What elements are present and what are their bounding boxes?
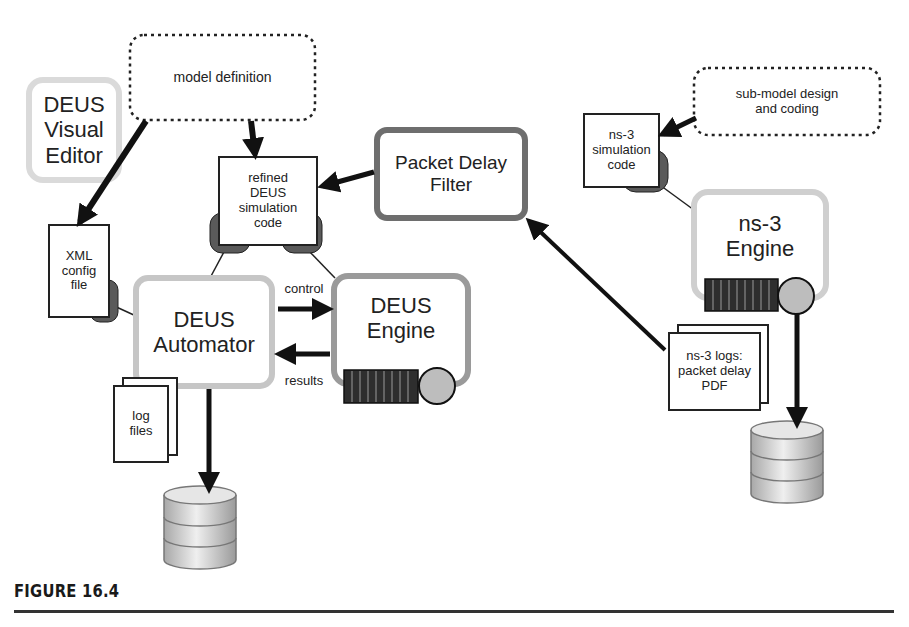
- label-line: sub-model design: [736, 87, 839, 102]
- label-line: file: [71, 278, 88, 293]
- arrow-submodel-to-ns3code: [663, 118, 696, 134]
- control-text: control: [284, 282, 323, 297]
- xml-config-label: XML config file: [49, 225, 109, 317]
- label-line: code: [607, 158, 635, 173]
- label-line: DEUS: [43, 92, 104, 117]
- arrow-filter-to-refined-code: [323, 172, 374, 186]
- label-line: log: [132, 409, 149, 424]
- ns3-engine-server-icon: [778, 278, 814, 314]
- label-line: Engine: [367, 318, 436, 343]
- deus-engine-server-icon: [419, 368, 455, 404]
- label-line: Visual: [44, 117, 104, 142]
- caption-divider: [14, 610, 894, 613]
- deus-engine-queue-icon: [344, 370, 418, 403]
- label-line: config: [62, 264, 97, 279]
- deus-visual-editor-label: DEUS Visual Editor: [29, 80, 119, 180]
- log-files-label: log files: [114, 386, 168, 462]
- label-line: Filter: [430, 174, 472, 196]
- arrow-model-to-refined-code: [251, 121, 255, 154]
- label-line: DEUS: [250, 186, 286, 201]
- arrow-ns3logs-to-filter: [530, 222, 665, 350]
- label-line: DEUS: [173, 307, 234, 332]
- label-line: XML: [66, 249, 93, 264]
- label-line: Engine: [726, 236, 795, 261]
- deus-engine-label: DEUS Engine: [334, 276, 468, 360]
- results-edge-label: results: [276, 372, 332, 390]
- label-line: packet delay: [678, 364, 751, 379]
- sub-model-design-label: sub-model design and coding: [694, 68, 880, 135]
- results-text: results: [285, 374, 323, 389]
- database-icon-left: [164, 486, 236, 569]
- packet-delay-filter-label: Packet Delay Filter: [377, 130, 525, 218]
- control-edge-label: control: [276, 280, 332, 298]
- refined-deus-code-label: refined DEUS simulation code: [219, 157, 317, 245]
- label-line: ns-3: [609, 128, 634, 143]
- ns3-logs-label: ns-3 logs: packet delay PDF: [669, 333, 760, 410]
- ns3-simulation-code-label: ns-3 simulation code: [584, 114, 659, 187]
- model-definition-text: model definition: [173, 69, 271, 85]
- label-line: ns-3: [739, 211, 782, 236]
- label-line: DEUS: [370, 293, 431, 318]
- ns3-engine-queue-icon: [705, 279, 778, 311]
- label-line: Automator: [153, 332, 255, 357]
- label-line: PDF: [702, 379, 728, 394]
- label-line: and coding: [755, 102, 819, 117]
- label-line: Packet Delay: [395, 152, 507, 174]
- label-line: Editor: [45, 143, 102, 168]
- deus-automator-label: DEUS Automator: [136, 278, 272, 386]
- model-definition-label: model definition: [130, 35, 315, 120]
- label-line: code: [254, 216, 282, 231]
- label-line: ns-3 logs:: [686, 349, 742, 364]
- figure-caption: FIGURE 16.4: [14, 580, 119, 601]
- label-line: simulation: [592, 143, 651, 158]
- label-line: refined: [248, 171, 288, 186]
- database-icon-right: [751, 421, 823, 503]
- label-line: files: [129, 424, 152, 439]
- ns3-engine-label: ns-3 Engine: [694, 192, 826, 280]
- label-line: simulation: [239, 201, 298, 216]
